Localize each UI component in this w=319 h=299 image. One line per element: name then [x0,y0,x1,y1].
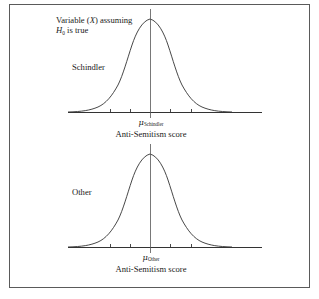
figure-frame: Variable (X) assuming H0 is true Schindl… [9,4,310,288]
panel-other [68,144,262,253]
annotation-line-2: H0 is true [56,25,88,35]
normal-curve-other [68,154,232,247]
mu-subscript-schindler: Schindler [144,121,163,127]
mean-label-schindler: μSchindler [139,118,164,128]
mu-subscript-other: Other [148,256,160,262]
null-hypothesis-annotation: Variable (X) assuming H0 is true [56,15,132,35]
h-null-subscript: 0 [62,30,65,36]
mean-label-other: μOther [143,253,160,263]
x-axis-label-schindler: Anti-Semitism score [116,129,187,139]
annotation-line-1: Variable (X) assuming [56,15,132,25]
series-label-other: Other [72,187,92,197]
distribution-curves-svg [10,5,309,287]
x-axis-label-other: Anti-Semitism score [116,264,187,274]
series-label-schindler: Schindler [72,62,105,72]
